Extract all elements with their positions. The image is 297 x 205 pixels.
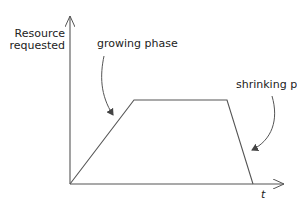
growing-phase-label: growing phase [97,37,178,50]
x-axis-label: t [261,188,266,201]
resource-curve [70,100,253,184]
resource-phase-diagram: Resource requested t growing phase shrin… [0,0,297,205]
y-axis-label-line2: requested [9,39,65,52]
shrinking-phase-arrow-icon [252,96,275,150]
growing-phase-arrow-icon [102,56,113,115]
shrinking-phase-label: shrinking phase [236,78,297,91]
